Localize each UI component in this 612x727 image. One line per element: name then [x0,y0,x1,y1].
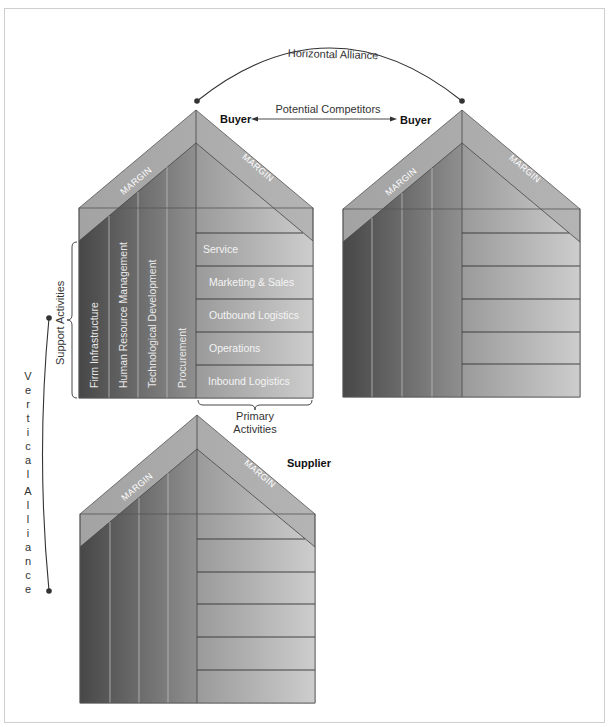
vertical-alliance-char: c [25,569,31,581]
vertical-alliance-label: V e r t i c a l A l l i a n c e [24,370,32,595]
arrow-left-icon [251,117,258,122]
vertical-alliance-char: n [25,555,31,567]
horizontal-alliance-label: Horizontal Alliance [288,47,379,61]
vertical-alliance-char: l [27,468,29,480]
connector-dot-icon [46,588,52,594]
vertical-alliance-char: a [25,541,32,553]
value-chain-house-buyer-left: MARGIN MARGIN Firm Infrastructure Human … [79,110,313,398]
vertical-alliance-char: e [25,583,31,595]
support-activity-technological-development: Technological Development [146,260,158,388]
vertical-alliance-char: l [27,513,29,525]
vertical-alliance-char: V [24,370,32,382]
vertical-alliance-char: e [25,384,31,396]
primary-activities-label-line1: Primary [236,410,274,422]
supplier-label: Supplier [287,457,332,469]
support-activities-brace: Support Activities [54,242,77,398]
vertical-alliance-char: A [24,485,32,497]
connector-dot-icon [459,98,465,104]
support-activity-firm-infrastructure: Firm Infrastructure [88,302,100,388]
horizontal-alliance-connector: Horizontal Alliance [194,47,465,104]
primary-activity-service: Service [203,243,238,255]
vertical-alliance-char: t [26,412,29,424]
connector-dot-icon [46,315,52,321]
buyer-right-label: Buyer [400,114,432,126]
vertical-alliance-char: r [26,398,30,410]
value-chain-alliance-diagram: MARGIN MARGIN Firm Infrastructure Human … [0,0,612,727]
support-activity-human-resource-management: Human Resource Management [117,242,129,388]
support-activities-label: Support Activities [54,280,66,365]
potential-competitors-label: Potential Competitors [275,103,381,115]
primary-activity-inbound-logistics: Inbound Logistics [208,375,290,387]
vertical-alliance-char: i [27,426,29,438]
primary-activity-operations: Operations [209,342,260,354]
arrow-right-icon [390,117,397,122]
support-activity-procurement: Procurement [176,328,188,388]
potential-competitors-connector: Buyer Buyer Potential Competitors [220,103,432,126]
primary-activity-marketing-sales: Marketing & Sales [209,276,294,288]
connector-dot-icon [194,98,200,104]
vertical-alliance-char: i [27,527,29,539]
primary-activities-label-line2: Activities [233,423,277,435]
vertical-alliance-connector: V e r t i c a l A l l i a n c e [24,315,51,595]
primary-activity-outbound-logistics: Outbound Logistics [209,309,299,321]
value-chain-house-buyer-right: MARGIN MARGIN [343,110,580,397]
vertical-alliance-char: c [25,440,31,452]
vertical-alliance-char: a [25,454,32,466]
buyer-left-label: Buyer [220,113,252,125]
value-chain-house-supplier: MARGIN MARGIN [80,415,315,703]
vertical-alliance-char: l [27,499,29,511]
